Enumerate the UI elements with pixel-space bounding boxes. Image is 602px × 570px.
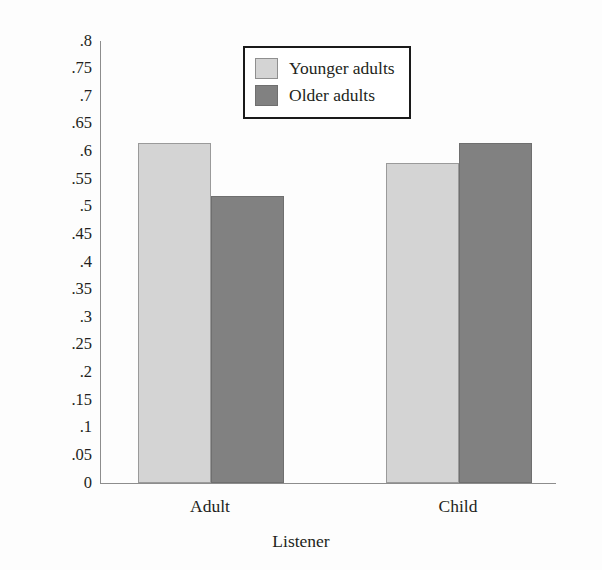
x-tick-label-child: Child: [388, 498, 528, 516]
x-tick-label-adult: Adult: [140, 498, 280, 516]
bar-chart-figure: Mean proportion propositions recalled 0.…: [0, 0, 602, 570]
y-tick-label: .7: [34, 88, 92, 105]
legend-swatch-light: [255, 58, 278, 79]
x-axis-title: Listener: [0, 533, 602, 551]
bar-child-younger: [386, 163, 459, 483]
y-tick-label: .15: [34, 392, 92, 409]
y-tick-label: .5: [34, 198, 92, 215]
y-tick-label: .65: [34, 115, 92, 132]
y-tick-label: .1: [34, 419, 92, 436]
legend-item: Older adults: [255, 82, 395, 109]
y-tick-label: .05: [34, 447, 92, 464]
y-tick-label: .25: [34, 336, 92, 353]
y-tick-label: 0: [34, 475, 92, 492]
y-tick-label: .8: [34, 33, 92, 50]
y-tick-label: .3: [34, 309, 92, 326]
legend-label: Younger adults: [289, 60, 395, 78]
legend-swatch-dark: [255, 85, 278, 106]
legend-item: Younger adults: [255, 55, 395, 82]
y-tick-label: .6: [34, 143, 92, 160]
y-tick-label: .55: [34, 171, 92, 188]
y-tick-label: .75: [34, 60, 92, 77]
y-tick-label: .45: [34, 226, 92, 243]
y-tick-label: .4: [34, 254, 92, 271]
legend-label: Older adults: [289, 87, 375, 105]
bar-child-older: [459, 143, 532, 483]
bar-adult-younger: [138, 143, 211, 483]
chart-legend: Younger adultsOlder adults: [243, 46, 411, 119]
bar-adult-older: [211, 196, 284, 483]
y-tick-label: .35: [34, 281, 92, 298]
y-tick-label: .2: [34, 364, 92, 381]
